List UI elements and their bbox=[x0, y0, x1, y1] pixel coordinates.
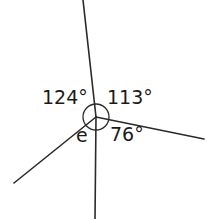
angle-diagram: 124° 113° 76° e bbox=[0, 0, 208, 219]
rays bbox=[14, 0, 204, 219]
angle-label-76: 76° bbox=[110, 123, 144, 145]
angle-label-e: e bbox=[76, 124, 88, 146]
angle-label-124: 124° bbox=[42, 86, 88, 108]
ray-down bbox=[95, 117, 96, 219]
angle-label-113: 113° bbox=[107, 86, 153, 108]
